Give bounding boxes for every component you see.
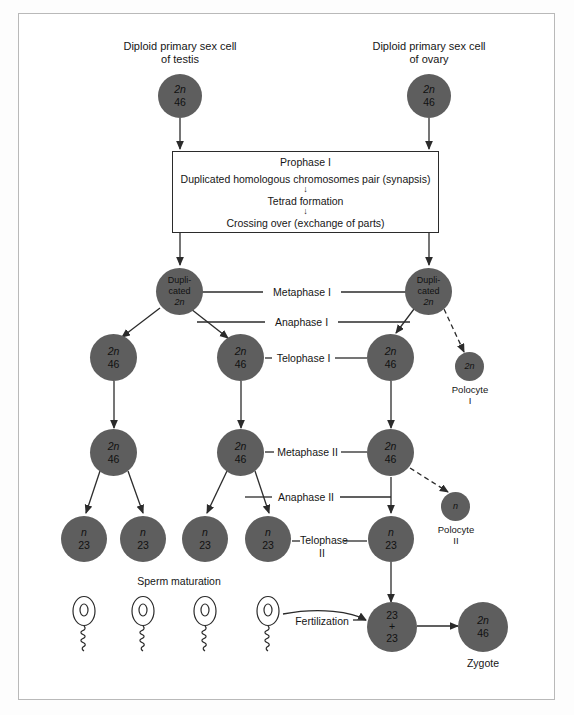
cell-line-2: 46	[108, 358, 120, 371]
line-m2a-to-spermatid2	[128, 471, 143, 513]
cell-line-2: 23	[137, 539, 149, 552]
cell-line-1: 2n	[385, 440, 397, 453]
label-sperm-maturation: Sperm maturation	[119, 575, 239, 588]
cell-fertilized-ovum: 23 + 23	[367, 602, 417, 652]
cell-line-2: cated	[168, 286, 190, 297]
cell-line-1: 2n	[423, 83, 435, 96]
cell-spermatid-3: n 23	[182, 516, 228, 562]
cell-line-2: 23	[385, 539, 397, 552]
label-anaphase-two: Anaphase II	[272, 491, 340, 503]
line-m2oocyte-to-polocyte2	[410, 468, 448, 492]
cell-line-1: 2n	[477, 614, 489, 627]
cell-line-1: 2n	[235, 440, 247, 453]
prophase-one-box: Prophase I Duplicated homologous chromos…	[172, 151, 439, 233]
label-metaphase-one: Metaphase I	[263, 286, 341, 298]
cell-polocyte-two: n	[441, 492, 470, 521]
cell-polocyte-one: 2n	[455, 352, 484, 381]
cell-line-1: n	[140, 526, 146, 539]
cell-line-2: 23	[262, 539, 274, 552]
cell-secondary-oocyte: 2n 46	[367, 334, 414, 381]
cell-line-3: 23	[386, 633, 398, 644]
cell-line-2: 23	[78, 539, 90, 552]
label-ovary-header: Diploid primary sex cell of ovary	[349, 40, 509, 66]
sperm-nucleus	[80, 604, 88, 616]
cell-spermatid-2: n 23	[120, 516, 166, 562]
label-polocyte-two: Polocyte II	[420, 524, 492, 547]
sperm-nucleus	[201, 604, 209, 616]
prophase-step-3: Crossing over (exchange of parts)	[173, 217, 438, 230]
cell-line-1: 2n	[108, 345, 120, 358]
sperm-cell-3	[189, 594, 221, 656]
sperm-nucleus	[264, 604, 272, 616]
cell-line-2: +	[389, 621, 395, 632]
cell-line-2: 46	[108, 453, 120, 466]
cell-line-1: Dupli-	[168, 275, 192, 286]
label-zygote: Zygote	[447, 657, 519, 670]
cell-ovum: n 23	[368, 516, 414, 562]
sperm-tail	[140, 626, 144, 651]
cell-line-2: 46	[174, 96, 186, 109]
cell-metaphase2-b: 2n 46	[217, 429, 264, 476]
cell-line-2: 23	[199, 539, 211, 552]
sperm-cell-2	[127, 594, 159, 656]
prophase-arrow-2: ↓	[173, 206, 438, 217]
cell-line-1: n	[265, 526, 271, 539]
cell-spermatid-1: n 23	[61, 516, 107, 562]
prophase-title: Prophase I	[173, 156, 438, 169]
cell-line-1: 2n	[464, 361, 474, 372]
cell-line-2: 46	[235, 358, 247, 371]
cell-metaphase2-a: 2n 46	[90, 429, 137, 476]
meiosis-diagram: Diploid primary sex cell of testis Diplo…	[0, 0, 574, 715]
line-dup-right-to-oocyte	[396, 309, 414, 333]
cell-line-2: 46	[385, 453, 397, 466]
cell-spermatid-4: n 23	[245, 516, 291, 562]
cell-line-1: n	[388, 526, 394, 539]
cell-line-2: 46	[423, 96, 435, 109]
cell-secondary-spermatocyte-a: 2n 46	[90, 334, 137, 381]
cell-line-1: Dupli-	[417, 275, 441, 286]
cell-secondary-spermatocyte-b: 2n 46	[217, 334, 264, 381]
cell-primary-oocyte: 2n 46	[407, 74, 451, 118]
label-fertilization: Fertilization	[290, 615, 354, 627]
cell-duplicated-spermatocyte: Dupli- cated 2n	[156, 268, 203, 315]
sperm-tail	[265, 626, 269, 651]
sperm-nucleus	[139, 604, 147, 616]
cell-line-1: 2n	[108, 440, 120, 453]
cell-line-2: cated	[417, 286, 439, 297]
cell-line-2: 46	[235, 453, 247, 466]
cell-duplicated-oocyte: Dupli- cated 2n	[405, 268, 452, 315]
cell-line-3: 2n	[423, 297, 433, 308]
cell-metaphase2-oocyte: 2n 46	[367, 429, 414, 476]
line-dup-left-to-sec-a	[122, 308, 160, 337]
sperm-tail	[202, 626, 206, 651]
line-dup-right-to-polocyte1	[444, 309, 464, 352]
line-m2a-to-spermatid1	[86, 471, 100, 513]
prophase-arrow-1: ↓	[173, 184, 438, 195]
sperm-cell-1	[68, 594, 100, 656]
cell-line-1: n	[202, 526, 208, 539]
cell-line-1: 2n	[385, 345, 397, 358]
label-testis-header: Diploid primary sex cell of testis	[100, 40, 260, 66]
sperm-cell-4	[252, 594, 284, 656]
cell-line-2: 46	[385, 358, 397, 371]
line-dup-left-to-sec-b	[191, 309, 228, 338]
cell-zygote: 2n 46	[458, 602, 508, 652]
label-anaphase-one: Anaphase I	[265, 316, 338, 328]
line-m2b-to-spermatid4	[255, 471, 269, 513]
line-m2b-to-spermatid3	[207, 471, 227, 513]
label-metaphase-two: Metaphase II	[274, 446, 341, 458]
label-telophase-two: Telophase II	[300, 534, 344, 559]
cell-line-1: 2n	[174, 83, 186, 96]
label-polocyte-one: Polocyte I	[434, 384, 506, 407]
cell-line-1: 2n	[235, 345, 247, 358]
label-telophase-one: Telophase I	[272, 352, 335, 364]
cell-line-1: n	[453, 501, 458, 512]
cell-line-3: 2n	[174, 297, 184, 308]
cell-line-2: 46	[477, 627, 489, 640]
cell-primary-spermatocyte: 2n 46	[158, 74, 202, 118]
sperm-tail	[81, 626, 85, 651]
cell-line-1: n	[81, 526, 87, 539]
